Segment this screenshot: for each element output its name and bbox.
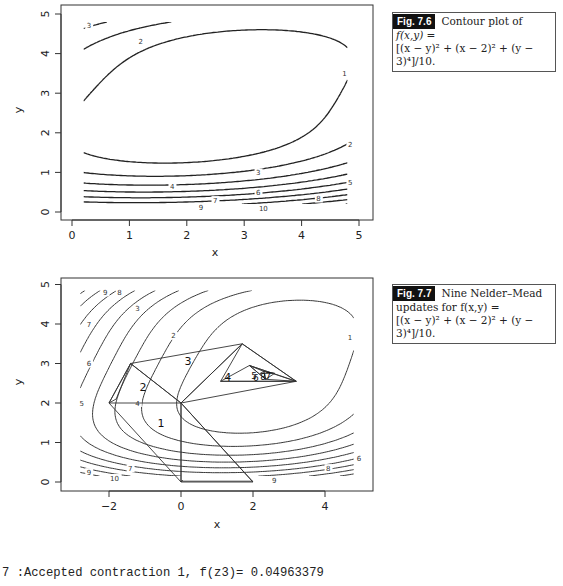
- y-axis: 012345: [39, 281, 61, 486]
- nelder-mead-plot-fig-7-7: 9876543217910689 12345678 −2024 012345 x…: [0, 272, 390, 542]
- figure-caption-7-6: Fig. 7.6Contour plot of f(x,y) = [(x − y…: [392, 12, 556, 72]
- y-tick-label: 0: [39, 479, 52, 486]
- caption-title: Contour plot of: [441, 15, 522, 27]
- y-tick-label: 3: [39, 90, 52, 97]
- contour-label: 6: [357, 455, 362, 463]
- contour-label: 8: [316, 195, 320, 203]
- contour-label: 1: [342, 70, 346, 78]
- y-tick-label: 2: [39, 129, 52, 136]
- caption-formula: [(x − y)² + (x − 2)² + (y − 3)⁴]/10.: [396, 42, 533, 67]
- x-axis-label: x: [214, 518, 221, 531]
- simplex-step-label: 7: [266, 371, 272, 381]
- contour-level-9: [80, 290, 354, 476]
- x-tick-label: 0: [69, 229, 76, 242]
- figure-caption-7-7: Fig. 7.7Nine Nelder–Mead updates for f(x…: [392, 284, 556, 344]
- contour-label: 2: [138, 38, 142, 46]
- x-tick-label: 3: [241, 229, 248, 242]
- contour-level-2: [142, 290, 354, 446]
- x-tick-label: −2: [101, 500, 117, 513]
- y-tick-label: 1: [39, 169, 52, 176]
- contour-level-7: [80, 290, 354, 476]
- y-axis-label: y: [12, 106, 25, 113]
- contour-label: 6: [256, 189, 261, 197]
- caption-formula-lhs: updates for f(x,y) =: [396, 301, 500, 313]
- caption-title: Nine Nelder–Mead: [441, 287, 542, 299]
- contour-label: 5: [348, 179, 352, 187]
- contour-label: 9: [87, 469, 91, 477]
- x-tick-label: 1: [126, 229, 133, 242]
- y-tick-label: 5: [39, 11, 52, 18]
- contour-label: 10: [110, 475, 119, 483]
- y-tick-label: 2: [39, 400, 52, 407]
- x-axis-label: x: [212, 246, 219, 259]
- contour-label: 8: [326, 465, 330, 473]
- simplex-step-label: 6: [253, 373, 259, 383]
- y-tick-label: 4: [39, 321, 52, 328]
- x-tick-label: 2: [250, 500, 257, 513]
- contour-label: 5: [80, 400, 84, 408]
- caption-formula: [(x − y)² + (x − 2)² + (y − 3)⁴]/10.: [396, 314, 533, 339]
- y-axis-label: y: [12, 378, 25, 385]
- contour-level-8: [302, 200, 347, 205]
- console-output-line: 7 :Accepted contraction 1, f(z3)= 0.0496…: [2, 566, 324, 580]
- contour-plot-fig-7-6: 3212345678910 012345 012345 x y: [0, 0, 390, 270]
- contour-label: 4: [135, 400, 140, 408]
- contour-label: 6: [87, 360, 92, 368]
- simplex-step-label: 4: [224, 371, 231, 384]
- simplex-triangle: [181, 403, 253, 482]
- contour-lines: [84, 22, 348, 204]
- contour-labels: 3212345678910: [85, 22, 354, 213]
- figure-tag: Fig. 7.6: [393, 14, 435, 29]
- simplex-step-label: 1: [158, 417, 165, 430]
- contour-label: 9: [103, 289, 107, 297]
- simplex-step-label: 8: [260, 372, 266, 382]
- y-tick-label: 0: [39, 209, 52, 216]
- contour-level-1: [177, 300, 354, 433]
- y-tick-label: 3: [39, 360, 52, 367]
- simplex-triangle: [109, 364, 131, 404]
- simplex-triangle: [181, 344, 296, 403]
- contour-label: 9: [272, 477, 276, 485]
- x-tick-label: 2: [183, 229, 190, 242]
- contour-label: 7: [87, 321, 91, 329]
- contour-label: 3: [256, 169, 260, 177]
- x-tick-label: 5: [356, 229, 363, 242]
- simplex-step-label: 2: [140, 381, 147, 394]
- contour-label: 9: [199, 204, 203, 212]
- x-axis: −2024: [101, 491, 329, 513]
- contour-label: 1: [348, 334, 352, 342]
- contour-label: 2: [348, 141, 352, 149]
- contour-label: 10: [259, 205, 268, 213]
- figure-tag: Fig. 7.7: [393, 286, 435, 301]
- contour-label: 4: [170, 183, 175, 191]
- contour-level-5: [80, 290, 354, 467]
- simplex-step-label: 3: [185, 355, 192, 368]
- contour-level-2: [84, 22, 348, 176]
- x-tick-label: 4: [322, 500, 329, 513]
- caption-formula-lhs: f(x,y) =: [396, 29, 435, 41]
- contour-label: 2: [171, 332, 175, 340]
- y-tick-label: 5: [39, 281, 52, 288]
- y-tick-label: 1: [39, 439, 52, 446]
- contour-label: 7: [213, 197, 217, 205]
- y-axis: 012345: [39, 11, 61, 216]
- contour-lines: [80, 290, 354, 476]
- contour-label: 3: [135, 305, 139, 313]
- contour-level-8: [80, 290, 354, 476]
- contour-label: 7: [128, 465, 132, 473]
- x-tick-label: 4: [298, 229, 305, 242]
- x-tick-label: 0: [178, 500, 185, 513]
- contour-label: 3: [87, 22, 91, 30]
- x-axis: 012345: [69, 220, 363, 242]
- contour-label: 8: [117, 289, 121, 297]
- y-tick-label: 4: [39, 50, 52, 57]
- contour-level-1: [84, 30, 348, 163]
